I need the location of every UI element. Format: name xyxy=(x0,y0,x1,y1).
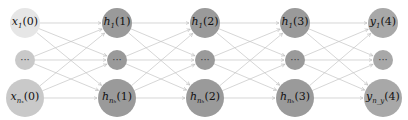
node-label-dots: ··· xyxy=(20,55,30,65)
node-label-dots: ··· xyxy=(112,55,122,65)
edge-arrow xyxy=(126,64,186,90)
edge-arrow xyxy=(304,29,368,56)
edge-arrow xyxy=(214,29,280,56)
node-label-x1: x1(0) xyxy=(12,16,38,30)
node-label-hnh-1: hnₕ(1) xyxy=(102,91,132,105)
node-label-hnh-2: hnₕ(2) xyxy=(190,91,220,105)
node-label-h1-1: h1(1) xyxy=(103,16,130,30)
edge-arrow xyxy=(312,64,372,90)
node-label-y1: y1(4) xyxy=(370,16,396,30)
node-label-dots: ··· xyxy=(200,55,210,65)
edge-arrow xyxy=(214,64,276,90)
node-label-h1-2: h1(2) xyxy=(191,16,218,30)
edge-arrow xyxy=(219,29,285,56)
edge-arrow xyxy=(126,29,190,56)
node-label-dots: ··· xyxy=(290,55,300,65)
edge-arrow xyxy=(34,64,98,91)
node-label-yny: yn_y(4) xyxy=(366,91,400,105)
edge-arrow xyxy=(134,64,194,90)
edge-arrow xyxy=(131,29,195,56)
node-label-h1-3: h1(3) xyxy=(281,16,308,30)
edge-arrow xyxy=(43,64,107,91)
edge-arrow xyxy=(304,64,364,90)
edge-arrow xyxy=(309,29,373,56)
edge-arrow xyxy=(223,64,285,90)
edge-arrow xyxy=(34,29,102,56)
node-label-xnx: xnₓ(0) xyxy=(11,91,40,105)
node-label-hnh-3: hnₕ(3) xyxy=(280,91,310,105)
node-label-dots: ··· xyxy=(378,55,388,65)
